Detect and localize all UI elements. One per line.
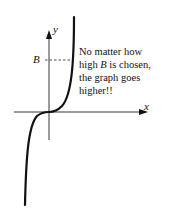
note-line-1: No matter how	[79, 45, 170, 58]
note-line-4: higher!!	[79, 84, 170, 97]
graph-figure: y x B No matter how high B is chosen, th…	[0, 0, 170, 220]
y-axis-label: y	[53, 23, 58, 35]
function-curve	[25, 17, 74, 205]
x-axis-label: x	[144, 100, 149, 112]
note-text: high	[79, 59, 100, 70]
note-line-2: high B is chosen,	[79, 58, 170, 71]
annotation-note: No matter how high B is chosen, the grap…	[79, 45, 170, 97]
note-line-3: the graph goes	[79, 71, 170, 84]
bound-label: B	[33, 53, 40, 65]
y-axis-arrow-icon	[46, 30, 52, 39]
note-text: is chosen,	[107, 59, 151, 70]
